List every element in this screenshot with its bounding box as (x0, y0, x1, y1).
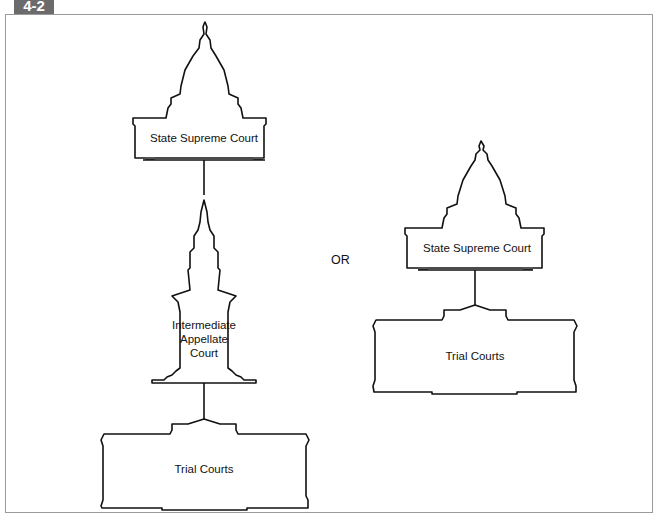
intermediate-appellate-court-label: Intermediate Appellate Court (154, 318, 254, 360)
trial-courts-label-right: Trial Courts (425, 349, 525, 363)
state-supreme-court-label-right: State Supreme Court (413, 241, 541, 255)
label-line-3: Court (154, 346, 254, 360)
trial-courts-label-left: Trial Courts (154, 462, 254, 476)
label-line-1: Intermediate (154, 318, 254, 332)
or-separator: OR (331, 253, 350, 267)
state-supreme-court-label-left: State Supreme Court (140, 131, 268, 145)
label-line-2: Appellate (154, 332, 254, 346)
